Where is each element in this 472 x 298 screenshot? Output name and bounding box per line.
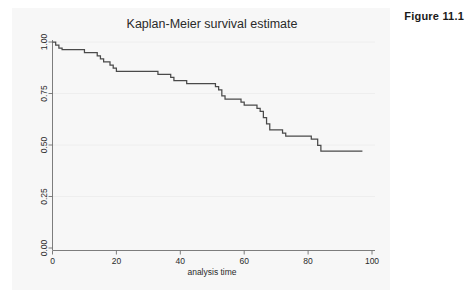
x-tick-label: 80 [303, 256, 313, 266]
y-tick-label: 0.00 [39, 239, 49, 256]
x-tick-label: 0 [50, 256, 55, 266]
chart-title: Kaplan-Meier survival estimate [127, 17, 298, 31]
y-tick-label: 0.25 [39, 188, 49, 205]
grid-lines [53, 42, 376, 197]
x-axis-ticks: 020406080100 [50, 251, 379, 267]
x-tick-label: 60 [239, 256, 249, 266]
survival-curve-line [53, 42, 363, 151]
x-axis-title: analysis time [187, 267, 236, 277]
x-tick-label: 20 [112, 256, 122, 266]
y-tick-label: 0.75 [39, 85, 49, 102]
y-axis-ticks: 0.000.250.500.751.00 [39, 33, 53, 256]
y-tick-label: 1.00 [39, 33, 49, 50]
x-tick-label: 40 [176, 256, 186, 266]
x-tick-label: 100 [365, 256, 379, 266]
figure-container: Figure 11.1 Kaplan-Meier survival estima… [0, 0, 472, 298]
y-tick-label: 0.50 [39, 136, 49, 153]
kaplan-meier-chart: Kaplan-Meier survival estimate 0.000.250… [0, 0, 472, 298]
